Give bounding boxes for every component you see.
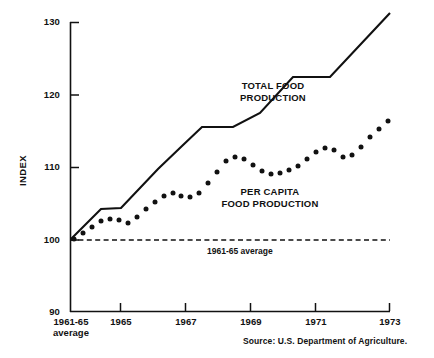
y-tick-120: 120 [24,89,60,100]
x-tick-1971: 1971 [295,316,337,327]
y-tick-100: 100 [24,234,60,245]
y-tick-110: 110 [24,161,60,172]
x-tick-1965: 1965 [100,316,142,327]
chart-figure: INDEX 130 120 110 100 90 1961-65 average… [0,0,434,358]
series-label-total-food-production: TOTAL FOOD PRODUCTION [218,80,328,103]
y-axis-ticks [70,23,79,241]
reference-line-label: 1961-65 average [207,246,273,256]
x-tick-1973: 1973 [369,316,411,327]
y-tick-130: 130 [24,16,60,27]
source-note: Source: U.S. Department of Agriculture. [243,336,407,346]
x-tick-1961-65-average: 1961-65 average [40,316,102,338]
x-axis-ticks [121,303,390,311]
x-tick-1967: 1967 [165,316,207,327]
series-dots-per-capita-food-production [72,119,391,242]
series-label-per-capita-food-production: PER CAPITA FOOD PRODUCTION [205,186,335,209]
x-tick-1969: 1969 [230,316,272,327]
chart-plot-area [0,0,434,358]
